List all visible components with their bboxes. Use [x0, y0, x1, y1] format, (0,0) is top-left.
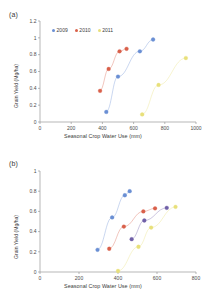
xtick-label: 200	[75, 275, 84, 281]
series-line-2010	[100, 49, 127, 91]
data-point-2011-2	[184, 56, 188, 60]
series-line-2011	[142, 58, 186, 114]
panel-a-yaxis-title: Grain Yield (Mg/ha)	[13, 64, 19, 108]
xtick-label: 600	[153, 275, 162, 281]
panel-b-xaxis-title: Seasonal Crop Water Use (mm)	[0, 283, 206, 289]
data-point-2009-2	[123, 193, 127, 197]
panel-a: (a) 00.20.40.60.811.202004006008001000 2…	[0, 0, 206, 149]
data-point-2009-1	[110, 216, 114, 220]
panel-a-legend: 2009 2010 2011	[52, 27, 113, 33]
xtick-label: 0	[39, 125, 42, 131]
ytick-label: 1	[34, 168, 37, 174]
data-point-2012-0	[130, 237, 134, 241]
data-point-2012-2	[165, 206, 169, 210]
ytick-label: 0.2	[30, 102, 37, 108]
ytick-label: 1	[34, 35, 37, 41]
ytick-label: 0.8	[30, 51, 37, 57]
xtick-label: 0	[39, 275, 42, 281]
data-point-2010-0	[107, 247, 111, 251]
xtick-label: 400	[98, 125, 107, 131]
data-point-2010-1	[107, 67, 111, 71]
data-point-2011-1	[157, 83, 161, 87]
data-point-2010-3	[153, 206, 157, 210]
data-point-2010-2	[118, 49, 122, 53]
series-line-2010	[109, 208, 155, 248]
legend-item-2009: 2009	[52, 27, 68, 33]
data-point-2009-0	[96, 248, 100, 252]
ytick-label: 0	[34, 269, 37, 275]
data-point-2011-0	[116, 269, 120, 273]
legend-label-2010: 2010	[79, 27, 90, 33]
ytick-label: 0	[34, 119, 37, 125]
panel-b-yaxis-title: Grain Yield (Mg/ha)	[13, 215, 19, 259]
panel-a-xaxis-title: Seasonal Crop Water Use (mm)	[0, 133, 206, 139]
xtick-label: 1000	[190, 125, 201, 131]
data-point-2010-2	[141, 210, 145, 214]
data-point-2011-3	[174, 205, 178, 209]
legend-swatch-2009	[52, 29, 55, 32]
series-line-2011	[118, 207, 176, 271]
legend-label-2011: 2011	[102, 27, 113, 33]
data-point-2012-1	[142, 219, 146, 223]
series-line-2009	[106, 40, 153, 112]
data-point-2010-0	[98, 89, 102, 93]
legend-label-2009: 2009	[57, 27, 68, 33]
data-point-2010-3	[125, 47, 129, 51]
panel-b: (b) 00.20.40.60.810200400600800 2009 201…	[0, 149, 206, 298]
ytick-label: 0.8	[30, 188, 37, 194]
ytick-label: 0.4	[30, 228, 37, 234]
xtick-label: 600	[129, 125, 138, 131]
legend-item-2010: 2010	[75, 27, 91, 33]
figure-container: (a) 00.20.40.60.811.202004006008001000 2…	[0, 0, 206, 298]
series-line-2012	[132, 208, 167, 239]
ytick-label: 0.2	[30, 249, 37, 255]
data-point-2009-1	[116, 75, 120, 79]
legend-swatch-2010	[75, 29, 78, 32]
data-point-2009-2	[138, 49, 142, 53]
xtick-label: 400	[114, 275, 123, 281]
data-point-2011-2	[149, 226, 153, 230]
data-point-2009-3	[151, 38, 155, 42]
legend-swatch-2011	[98, 29, 101, 32]
ytick-label: 1.2	[30, 18, 37, 24]
panel-b-plot: 00.20.40.60.810200400600800	[0, 149, 206, 298]
xtick-label: 200	[67, 125, 76, 131]
data-point-2011-0	[140, 113, 144, 117]
data-point-2009-0	[104, 110, 108, 114]
xtick-label: 800	[192, 275, 201, 281]
panel-a-plot: 00.20.40.60.811.202004006008001000	[0, 0, 206, 149]
series-line-2009	[98, 191, 130, 250]
data-point-2010-1	[122, 225, 126, 229]
data-point-2011-1	[137, 245, 141, 249]
ytick-label: 0.6	[30, 208, 37, 214]
legend-item-2011: 2011	[98, 27, 113, 33]
ytick-label: 0.4	[30, 85, 37, 91]
xtick-label: 800	[161, 125, 170, 131]
ytick-label: 0.6	[30, 68, 37, 74]
data-point-2009-3	[128, 189, 132, 193]
